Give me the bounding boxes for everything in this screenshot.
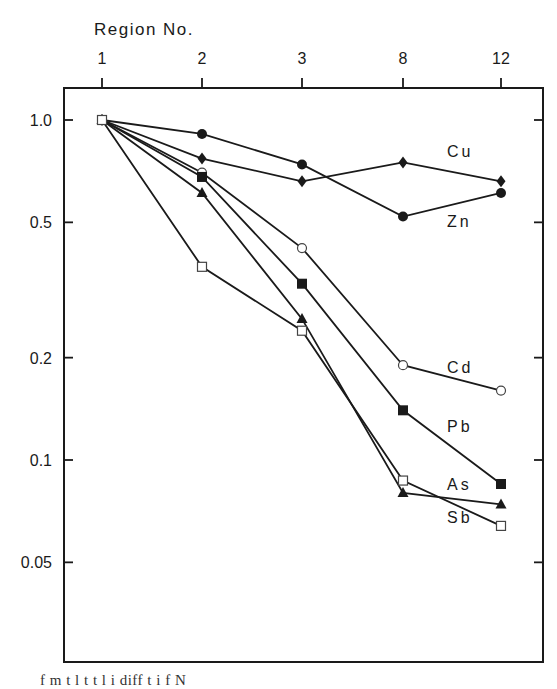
x-tick-label: 3 bbox=[298, 50, 307, 67]
marker-zn bbox=[297, 159, 307, 169]
marker-cd bbox=[298, 244, 307, 253]
x-tick-label: 2 bbox=[198, 50, 207, 67]
y-tick-label: 0.05 bbox=[21, 554, 52, 571]
marker-sb bbox=[298, 326, 307, 335]
y-tick-label: 1.0 bbox=[30, 112, 52, 129]
series-markers bbox=[97, 114, 507, 530]
y-tick-label: 0.1 bbox=[30, 452, 52, 469]
y-tick-label: 0.5 bbox=[30, 214, 52, 231]
series-label-cd: Cd bbox=[447, 359, 473, 376]
marker-cd bbox=[399, 361, 408, 370]
marker-sb bbox=[399, 476, 408, 485]
marker-cu bbox=[399, 156, 408, 168]
series-label-pb: Pb bbox=[447, 418, 473, 435]
y-tick-label: 0.2 bbox=[30, 350, 52, 367]
marker-sb bbox=[497, 521, 506, 530]
marker-pb bbox=[297, 279, 307, 289]
x-tick-label: 12 bbox=[492, 50, 510, 67]
figure-caption: f m t l t t l i diff t i f N bbox=[40, 672, 186, 689]
marker-as bbox=[398, 487, 409, 497]
series-label-cu: Cu bbox=[447, 143, 473, 160]
marker-zn bbox=[496, 188, 506, 198]
series-label-sb: Sb bbox=[447, 509, 473, 526]
marker-pb bbox=[197, 172, 207, 182]
marker-cd bbox=[497, 386, 506, 395]
marker-cu bbox=[298, 175, 307, 187]
series-line-pb bbox=[102, 120, 501, 484]
marker-zn bbox=[197, 129, 207, 139]
series-label-as: As bbox=[447, 476, 472, 493]
marker-as bbox=[197, 187, 208, 197]
x-tick-label: 1 bbox=[98, 50, 107, 67]
marker-sb bbox=[198, 262, 207, 271]
x-axis-title: Region No. bbox=[94, 20, 194, 39]
series-label-zn: Zn bbox=[447, 213, 472, 230]
x-tick-label: 8 bbox=[399, 50, 408, 67]
marker-zn bbox=[398, 212, 408, 222]
marker-sb bbox=[98, 116, 107, 125]
marker-pb bbox=[398, 405, 408, 415]
marker-pb bbox=[496, 479, 506, 489]
marker-cu bbox=[198, 153, 207, 165]
marker-cu bbox=[497, 175, 506, 187]
